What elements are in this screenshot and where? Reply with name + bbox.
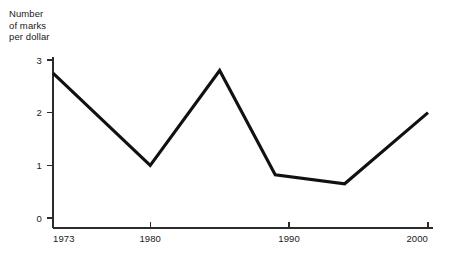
line-chart: Number of marks per dollar 0123 19731980… <box>0 0 455 260</box>
x-tick-label: 1990 <box>278 233 300 244</box>
y-tick-label: 3 <box>37 55 42 66</box>
data-series-line <box>53 71 428 184</box>
y-tick-label: 0 <box>37 213 42 224</box>
y-tick-label: 1 <box>37 160 42 171</box>
x-tick-label: 1980 <box>139 233 161 244</box>
y-tick-label: 2 <box>37 107 42 118</box>
chart-plot-area: 0123 1973198019902000 <box>0 0 455 260</box>
x-tick-label: 1973 <box>53 233 75 244</box>
y-axis-ticks: 0123 <box>37 55 53 224</box>
x-tick-label: 2000 <box>406 233 428 244</box>
x-axis-ticks: 1973198019902000 <box>53 222 428 244</box>
